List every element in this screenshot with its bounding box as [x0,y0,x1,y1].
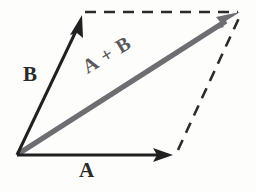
vector-addition-figure: A B A + B [0,0,256,192]
vector-diagram-canvas [0,0,256,192]
vector-a-label: A [79,160,94,181]
vector-a-arrow [17,148,173,162]
dashed-right-line [178,18,239,150]
vector-b-label: B [23,64,37,85]
